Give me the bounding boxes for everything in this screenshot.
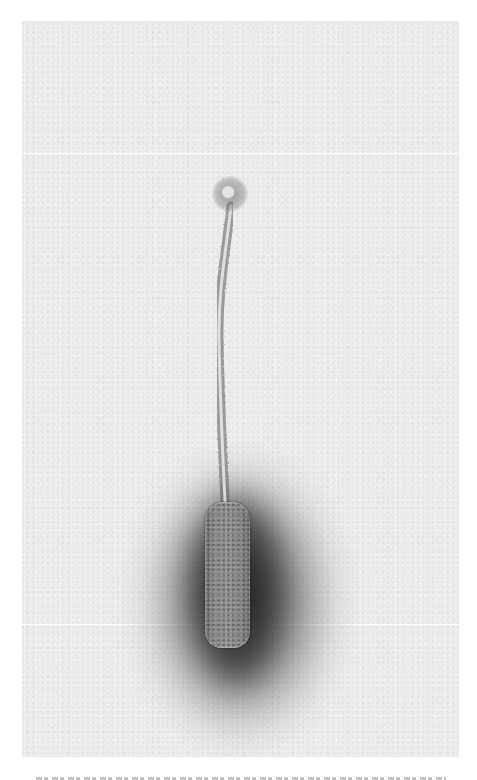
micrograph-image [22, 21, 459, 757]
particle-head [212, 176, 248, 212]
figure-caption [36, 771, 446, 780]
rod-shaped-body [205, 502, 250, 648]
